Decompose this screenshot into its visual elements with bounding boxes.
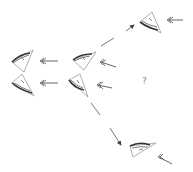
left-upper-eye-icon <box>12 50 33 72</box>
middle-upper-eye-icon <box>73 52 96 70</box>
left-upper-arrow-icon <box>40 58 58 64</box>
bottom-right-arrow-icon <box>158 154 172 164</box>
connector-up-arrow <box>101 25 134 46</box>
left-lower-arrow-icon <box>40 80 58 86</box>
connector-down-arrow <box>91 103 121 145</box>
middle-lower-eye-icon <box>69 74 88 97</box>
bottom-right-eye-icon <box>130 143 156 157</box>
question-mark: ? <box>142 76 147 86</box>
top-right-arrow-icon <box>167 17 183 23</box>
diagram-canvas <box>0 0 193 172</box>
left-lower-eye-icon <box>12 74 34 96</box>
top-right-eye-icon <box>140 12 161 33</box>
middle-upper-arrow-icon <box>100 59 116 67</box>
middle-lower-arrow-icon <box>97 82 112 89</box>
